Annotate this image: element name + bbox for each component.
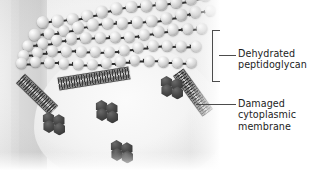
damaged-cytoplasmic-membrane-leader-line bbox=[196, 104, 236, 105]
right-fade bbox=[190, 0, 224, 172]
cell-illustration bbox=[0, 0, 224, 172]
dehydrated-peptidoglycan-label: Dehydrated peptidoglycan bbox=[238, 48, 307, 71]
figure-canvas: Dehydrated peptidoglycanDamaged cytoplas… bbox=[0, 0, 315, 172]
dehydrated-peptidoglycan-leader-line bbox=[219, 55, 236, 56]
damaged-cytoplasmic-membrane-label: Damaged cytoplasmic membrane bbox=[238, 98, 296, 132]
bottom-fade bbox=[0, 152, 224, 172]
